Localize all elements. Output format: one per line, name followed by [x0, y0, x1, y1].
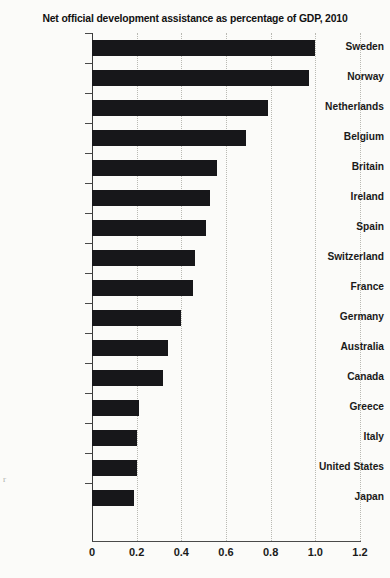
- category-label-france: France: [298, 281, 384, 292]
- category-label-belgium: Belgium: [298, 131, 384, 142]
- bar-germany: [92, 310, 181, 326]
- x-tick-label: 1.2: [340, 546, 380, 558]
- x-tick-label: 0: [72, 546, 112, 558]
- y-axis-tick: [85, 183, 92, 184]
- category-label-germany: Germany: [298, 311, 384, 322]
- category-label-greece: Greece: [298, 401, 384, 412]
- category-label-netherlands: Netherlands: [298, 101, 384, 112]
- y-axis-tick: [85, 303, 92, 304]
- y-axis-tick: [85, 273, 92, 274]
- category-label-switzerland: Switzerland: [298, 251, 384, 262]
- category-label-united-states: United States: [298, 461, 384, 472]
- category-label-spain: Spain: [298, 221, 384, 232]
- x-axis-line: [92, 541, 361, 542]
- category-label-australia: Australia: [298, 341, 384, 352]
- y-axis-tick: [85, 453, 92, 454]
- scan-artifact-mark: r: [3, 474, 6, 484]
- y-axis-tick: [85, 93, 92, 94]
- y-axis-tick: [85, 213, 92, 214]
- x-tick-label: 0.4: [161, 546, 201, 558]
- y-axis-tick: [85, 483, 92, 484]
- category-label-ireland: Ireland: [298, 191, 384, 202]
- bar-ireland: [92, 190, 210, 206]
- chart-title: Net official development assistance as p…: [0, 13, 390, 24]
- category-label-italy: Italy: [298, 431, 384, 442]
- bar-switzerland: [92, 250, 195, 266]
- bar-australia: [92, 340, 168, 356]
- y-axis-tick: [85, 63, 92, 64]
- category-label-canada: Canada: [298, 371, 384, 382]
- bar-greece: [92, 400, 139, 416]
- category-label-norway: Norway: [298, 71, 384, 82]
- x-tick-label: 0.2: [117, 546, 157, 558]
- x-tick-label: 1.0: [295, 546, 335, 558]
- y-axis-tick: [85, 333, 92, 334]
- bar-spain: [92, 220, 206, 236]
- bar-italy: [92, 430, 137, 446]
- x-tick-label: 0.8: [251, 546, 291, 558]
- y-axis-tick: [85, 33, 92, 34]
- bar-belgium: [92, 130, 246, 146]
- category-label-sweden: Sweden: [298, 41, 384, 52]
- y-axis-tick: [85, 153, 92, 154]
- y-axis-tick: [85, 393, 92, 394]
- chart-container: Net official development assistance as p…: [0, 0, 390, 578]
- bar-united-states: [92, 460, 137, 476]
- bar-norway: [92, 70, 309, 86]
- y-axis-tick: [85, 423, 92, 424]
- x-tick-label: 0.6: [206, 546, 246, 558]
- y-axis-tick: [85, 363, 92, 364]
- category-label-britain: Britain: [298, 161, 384, 172]
- y-axis-tick: [85, 123, 92, 124]
- y-axis-tick: [85, 243, 92, 244]
- bar-sweden: [92, 40, 315, 56]
- bar-canada: [92, 370, 163, 386]
- bar-japan: [92, 490, 134, 506]
- bar-netherlands: [92, 100, 268, 116]
- bar-britain: [92, 160, 217, 176]
- category-label-japan: Japan: [298, 491, 384, 502]
- bar-france: [92, 280, 193, 296]
